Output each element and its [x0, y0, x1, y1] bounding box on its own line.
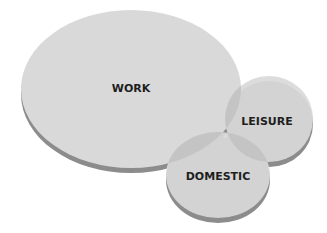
venn-diagram: WORK LEISURE DOMESTIC — [0, 0, 327, 233]
work-label: WORK — [112, 82, 151, 95]
leisure-label: LEISURE — [241, 115, 292, 128]
domestic-label: DOMESTIC — [186, 170, 251, 183]
